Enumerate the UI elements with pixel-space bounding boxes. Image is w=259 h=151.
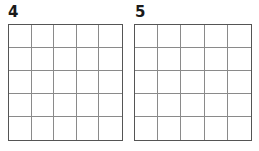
grid-cell: [181, 117, 204, 140]
grid-cell: [228, 117, 251, 140]
grid-cell: [77, 25, 100, 48]
grid-cell: [205, 25, 228, 48]
grid-cell: [228, 48, 251, 71]
grid-cell: [9, 48, 32, 71]
grid-cell: [77, 71, 100, 94]
grid-cell: [135, 25, 158, 48]
grid-cell: [228, 94, 251, 117]
grid-5: [134, 24, 252, 141]
grid-cell: [205, 71, 228, 94]
grid-cell: [99, 94, 122, 117]
grid-cell: [99, 71, 122, 94]
grid-cell: [9, 25, 32, 48]
grid-cell: [9, 117, 32, 140]
grid-cell: [99, 48, 122, 71]
grid-cell: [54, 48, 77, 71]
grid-cell: [135, 94, 158, 117]
grid-cell: [181, 71, 204, 94]
grid-cell: [77, 117, 100, 140]
grid-cell: [32, 117, 55, 140]
grid-cell: [54, 117, 77, 140]
grid-cell: [32, 25, 55, 48]
grid-cell: [205, 117, 228, 140]
grid-cell: [54, 71, 77, 94]
grid-cell: [158, 48, 181, 71]
grid-cell: [228, 25, 251, 48]
grid-cell: [158, 94, 181, 117]
grid-cell: [228, 71, 251, 94]
grid-cell: [135, 117, 158, 140]
grid-cell: [32, 94, 55, 117]
grid-cell: [135, 71, 158, 94]
grid-cell: [77, 94, 100, 117]
grid-cell: [135, 48, 158, 71]
grid-cell: [205, 48, 228, 71]
grid-cell: [158, 117, 181, 140]
grid-cell: [9, 94, 32, 117]
grid-cell: [54, 94, 77, 117]
grid-cell: [54, 25, 77, 48]
grid-cell: [99, 117, 122, 140]
grid-cell: [158, 71, 181, 94]
grid-cell: [181, 25, 204, 48]
grid-cell: [32, 71, 55, 94]
grid-cell: [77, 48, 100, 71]
grid-cell: [181, 48, 204, 71]
grid-cell: [32, 48, 55, 71]
grid-cell: [99, 25, 122, 48]
grid-cell: [9, 71, 32, 94]
grid-4: [8, 24, 123, 141]
grid-cell: [158, 25, 181, 48]
grid-cell: [205, 94, 228, 117]
grid-label-4: 4: [8, 4, 18, 20]
grid-cell: [181, 94, 204, 117]
grid-label-5: 5: [135, 4, 145, 20]
